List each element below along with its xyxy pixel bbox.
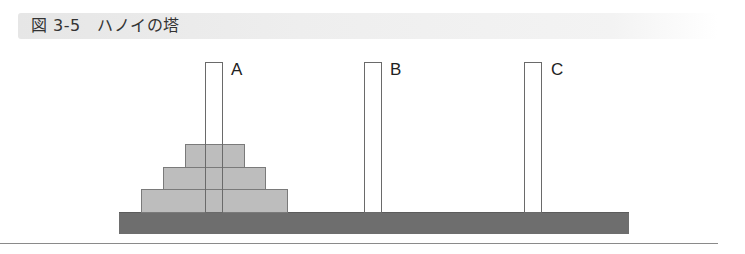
figure-title: 図 3-5 ハノイの塔 [31,14,180,38]
peg-b [364,62,382,213]
peg-b-label: B [390,61,401,79]
peg-c [524,62,542,213]
peg-a [205,62,223,213]
tower-base [119,212,629,234]
peg-c-label: C [551,61,563,79]
bottom-divider [0,243,718,244]
peg-a-label: A [231,61,242,79]
